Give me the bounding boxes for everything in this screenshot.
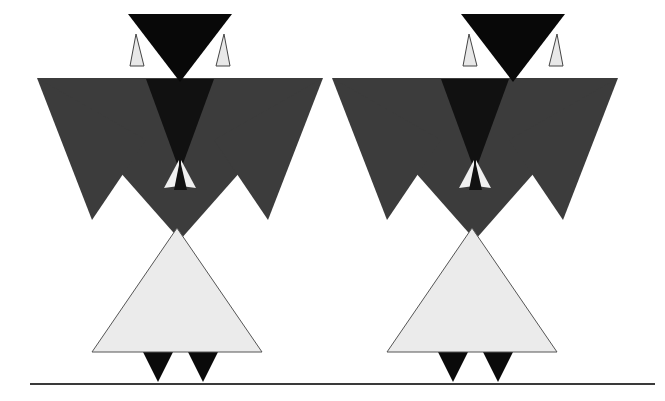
figure-canvas (0, 0, 665, 401)
artboard (0, 0, 665, 401)
